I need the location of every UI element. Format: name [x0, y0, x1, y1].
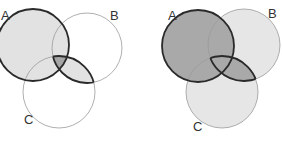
left-label-b: B: [110, 8, 119, 23]
venn-left: A B C: [0, 8, 122, 128]
venn-right: A B C: [162, 6, 280, 134]
right-label-c: C: [193, 119, 202, 134]
right-label-a: A: [168, 8, 177, 23]
left-label-a: A: [1, 8, 10, 23]
venn-diagrams: A B C A B C: [0, 0, 282, 142]
right-label-b: B: [268, 6, 277, 21]
left-label-c: C: [24, 112, 33, 127]
